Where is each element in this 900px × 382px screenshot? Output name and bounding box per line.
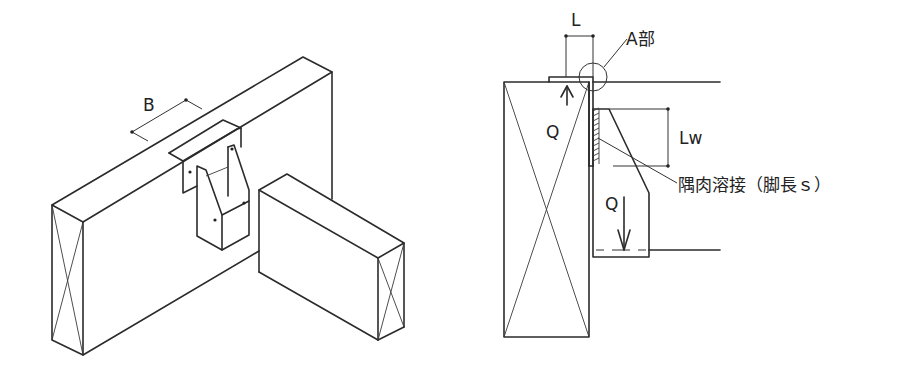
diagram-canvas: B xyxy=(0,0,900,382)
label-l: L xyxy=(571,10,581,30)
label-q-down: Q xyxy=(605,194,618,214)
label-lw: Lw xyxy=(679,128,702,148)
label-q-up: Q xyxy=(546,122,559,142)
label-b: B xyxy=(143,95,155,115)
label-detail-a: A部 xyxy=(626,29,655,49)
label-weld: 隅肉溶接（脚長ｓ） xyxy=(678,175,831,195)
